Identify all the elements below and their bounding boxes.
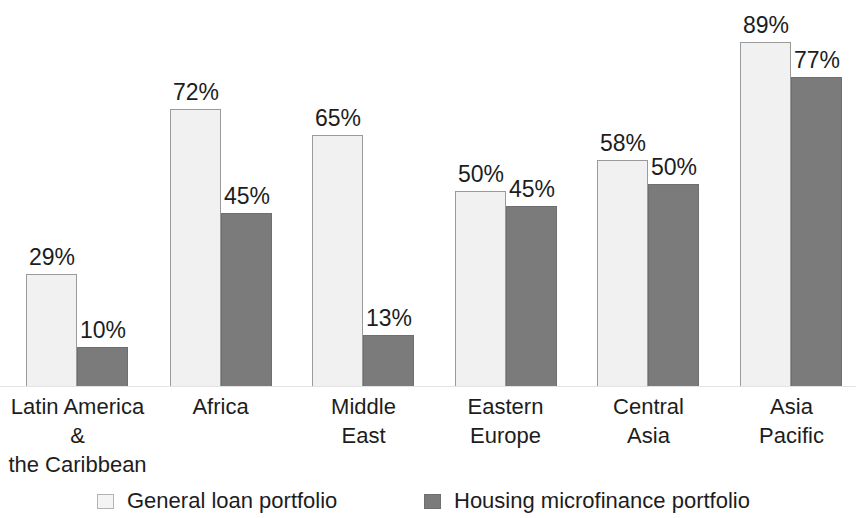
- category-label-line: the Caribbean: [0, 450, 165, 479]
- category-label-line: Asia: [704, 392, 856, 421]
- chart-legend: General loan portfolio Housing microfina…: [0, 486, 856, 518]
- bar-group-asia-pacific: 89% 77%: [740, 0, 842, 388]
- bar-group-middle-east: 65% 13%: [312, 0, 414, 388]
- legend-label-general-loan-portfolio: General loan portfolio: [127, 488, 337, 514]
- bar-value-general-central-asia: 58%: [578, 130, 668, 156]
- legend-item-general-loan-portfolio: General loan portfolio: [97, 486, 337, 516]
- bar-value-general-latin-america: 29%: [7, 244, 97, 270]
- bar-group-africa: 72% 45%: [170, 0, 272, 388]
- bar-housing-asia-pacific: [791, 77, 842, 386]
- bar-group-eastern-europe: 50% 45%: [455, 0, 557, 388]
- dark-square-swatch-icon: [424, 494, 441, 509]
- bar-group-central-asia: 58% 50%: [597, 0, 699, 388]
- baseline-axis: [0, 386, 856, 387]
- bar-general-asia-pacific: [740, 42, 791, 386]
- bar-housing-africa: [221, 213, 272, 386]
- bar-housing-middle-east: [363, 335, 414, 386]
- bar-housing-eastern-europe: [506, 206, 557, 386]
- category-label-line: Pacific: [704, 421, 856, 450]
- category-label-line: &: [0, 421, 165, 450]
- bar-value-housing-eastern-europe: 45%: [487, 176, 577, 202]
- category-label-asia-pacific: Asia Pacific: [704, 392, 856, 450]
- category-axis: Latin America & the Caribbean Africa Mid…: [0, 392, 856, 478]
- legend-label-housing-microfinance-portfolio: Housing microfinance portfolio: [454, 488, 750, 514]
- bar-value-general-middle-east: 65%: [293, 105, 383, 131]
- bar-value-general-africa: 72%: [151, 79, 241, 105]
- bar-value-housing-central-asia: 50%: [629, 154, 719, 180]
- bar-value-general-asia-pacific: 89%: [721, 12, 811, 38]
- bar-group-latin-america: 29% 10%: [26, 0, 128, 388]
- plot-area: 29% 10% 72% 45% 65% 13% 50% 45%: [0, 0, 856, 388]
- bar-general-africa: [170, 109, 221, 386]
- bar-value-housing-middle-east: 13%: [344, 305, 434, 331]
- bar-general-middle-east: [312, 135, 363, 386]
- bar-value-housing-africa: 45%: [202, 183, 292, 209]
- bar-chart: 29% 10% 72% 45% 65% 13% 50% 45%: [0, 0, 856, 518]
- light-square-swatch-icon: [97, 494, 114, 509]
- bar-general-central-asia: [597, 160, 648, 386]
- bar-housing-central-asia: [648, 184, 699, 386]
- bar-general-eastern-europe: [455, 191, 506, 386]
- bar-housing-latin-america: [77, 347, 128, 386]
- bar-value-housing-latin-america: 10%: [58, 317, 148, 343]
- bar-value-housing-asia-pacific: 77%: [772, 47, 856, 73]
- legend-item-housing-microfinance-portfolio: Housing microfinance portfolio: [424, 486, 750, 516]
